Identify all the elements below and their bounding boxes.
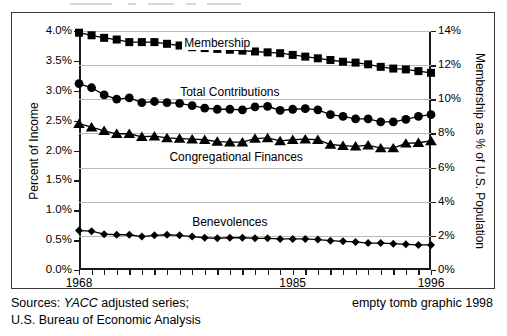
x-axis-tick — [305, 270, 306, 275]
series-label-congregational-finances: Congregational Finances — [167, 151, 304, 164]
x-axis-tick — [180, 270, 181, 275]
footer: Sources: YACC adjusted series; empty tom… — [11, 295, 495, 329]
y-axis-right-tick-label: 4% — [438, 196, 455, 208]
y-axis-right-tick — [431, 133, 436, 134]
y-axis-right-title: Membership as % of U.S. Population — [472, 31, 488, 270]
y-axis-left-tick-label: 0.0% — [46, 264, 72, 276]
y-axis-right-tick — [431, 31, 436, 32]
series-label-total-contributions: Total Contributions — [178, 86, 281, 99]
sources-suffix: adjusted series; — [98, 296, 189, 310]
x-axis-tick — [205, 270, 206, 275]
x-axis-tick — [217, 270, 218, 275]
x-axis-tick-label: 1985 — [279, 277, 306, 289]
series-label-membership: Membership — [182, 37, 252, 50]
x-axis-tick — [406, 270, 407, 275]
y-axis-left-title-text: Percent of Income — [27, 102, 41, 199]
x-axis-tick-label: 1996 — [418, 277, 445, 289]
sources-line-2: U.S. Bureau of Economic Analysis — [11, 312, 201, 329]
y-axis-left-tick-label: 3.5% — [46, 55, 72, 67]
x-axis-tick — [79, 270, 80, 275]
artifact-mark — [70, 3, 112, 5]
series-membership — [75, 29, 435, 77]
x-axis-tick — [330, 270, 331, 275]
graphic-credit: empty tomb graphic 1998 — [352, 295, 493, 312]
x-axis-tick — [318, 270, 319, 275]
y-axis-left-tick-label: 2.5% — [46, 115, 72, 127]
x-axis-tick — [167, 270, 168, 275]
x-axis-tick-label: 1968 — [66, 277, 93, 289]
footer-row-1: Sources: YACC adjusted series; empty tom… — [11, 295, 495, 312]
y-axis-right-tick-label: 0% — [438, 264, 455, 276]
y-axis-left-title: Percent of Income — [26, 31, 42, 270]
y-axis-right-tick-label: 12% — [438, 59, 461, 71]
y-axis-left-tick-label: 1.0% — [46, 205, 72, 217]
x-axis-tick — [230, 270, 231, 275]
x-axis-tick — [368, 270, 369, 275]
y-axis-right-tick — [431, 236, 436, 237]
sources-italic-yacc: YACC — [64, 296, 98, 310]
series-benevolences — [75, 227, 435, 249]
sources-prefix: Sources: — [11, 296, 64, 310]
x-axis-tick — [343, 270, 344, 275]
x-axis-tick — [129, 270, 130, 275]
y-axis-right-tick — [431, 99, 436, 100]
x-axis-tick — [268, 270, 269, 275]
y-axis-right-tick-label: 8% — [438, 128, 455, 140]
x-axis-tick — [381, 270, 382, 275]
x-axis-tick — [192, 270, 193, 275]
x-axis-tick — [142, 270, 143, 275]
y-axis-left-tick-label: 0.5% — [46, 234, 72, 246]
x-axis-tick — [293, 270, 294, 275]
x-axis-tick — [393, 270, 394, 275]
x-axis-tick — [104, 270, 105, 275]
x-axis-tick — [280, 270, 281, 275]
y-axis-right-tick-label: 6% — [438, 162, 455, 174]
sources-line-1: Sources: YACC adjusted series; — [11, 295, 189, 312]
y-axis-left-tick-label: 1.5% — [46, 175, 72, 187]
footer-row-2: U.S. Bureau of Economic Analysis — [11, 312, 495, 329]
y-axis-left-tick-label: 3.0% — [46, 85, 72, 97]
top-edge-artifact — [0, 0, 507, 11]
y-axis-right-tick — [431, 65, 436, 66]
x-axis-tick — [242, 270, 243, 275]
y-axis-right-tick — [431, 202, 436, 203]
y-axis-left-tick-label: 4.0% — [46, 25, 72, 37]
x-axis-tick — [255, 270, 256, 275]
artifact-mark — [207, 3, 241, 5]
y-axis-right-tick-label: 2% — [438, 230, 455, 242]
y-axis-right-tick-label: 10% — [438, 94, 461, 106]
y-axis-right-tick — [431, 168, 436, 169]
plot-inner: 0.0%0.5%1.0%1.5%2.0%2.5%3.0%3.5%4.0% 0%2… — [79, 31, 431, 270]
plot-area: 0.0%0.5%1.0%1.5%2.0%2.5%3.0%3.5%4.0% 0%2… — [79, 31, 431, 270]
y-axis-right-title-text: Membership as % of U.S. Population — [473, 52, 487, 248]
x-axis-tick — [418, 270, 419, 275]
x-axis-tick — [117, 270, 118, 275]
y-axis-left-tick-label: 2.0% — [46, 145, 72, 157]
x-axis-tick — [92, 270, 93, 275]
artifact-mark — [128, 3, 136, 5]
x-axis-tick — [356, 270, 357, 275]
x-axis-tick — [154, 270, 155, 275]
artifact-mark — [148, 3, 174, 5]
artifact-mark — [186, 3, 196, 5]
x-axis-tick — [431, 270, 432, 275]
y-axis-right-tick-label: 14% — [438, 25, 461, 37]
series-label-benevolences: Benevolences — [190, 216, 269, 229]
chart-frame: Percent of Income Membership as % of U.S… — [11, 12, 495, 289]
